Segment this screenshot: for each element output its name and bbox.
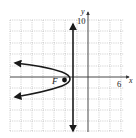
parabola-graph: F y 10 6 x [0, 0, 136, 138]
y-axis-label: y [80, 7, 85, 16]
x-tick-label: 6 [117, 79, 121, 89]
focus-label: F [51, 76, 58, 86]
focus-point [62, 78, 67, 83]
x-axis-label: x [128, 76, 133, 85]
grid [10, 20, 124, 131]
y-tick-label: 10 [77, 16, 86, 26]
parabola-curve [15, 63, 70, 97]
